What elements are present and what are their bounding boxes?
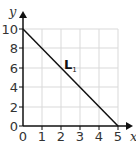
svg-text:4: 4 bbox=[95, 129, 103, 142]
svg-text:3: 3 bbox=[76, 129, 84, 142]
svg-text:10: 10 bbox=[1, 22, 18, 37]
x-tick-labels: 0 1 2 3 4 5 bbox=[19, 129, 122, 142]
y-axis-arrow-icon bbox=[19, 11, 27, 18]
line-chart: 10 8 6 4 2 0 0 1 2 3 4 5 x y L1 bbox=[0, 0, 136, 142]
svg-text:2: 2 bbox=[10, 100, 18, 115]
svg-text:4: 4 bbox=[10, 80, 18, 95]
y-tick-labels: 10 8 6 4 2 0 bbox=[1, 22, 18, 134]
line-l1 bbox=[23, 29, 118, 126]
y-axis-label: y bbox=[8, 4, 17, 19]
svg-text:0: 0 bbox=[10, 119, 18, 134]
svg-text:5: 5 bbox=[114, 129, 122, 142]
svg-text:0: 0 bbox=[19, 129, 27, 142]
svg-text:1: 1 bbox=[38, 129, 46, 142]
svg-text:2: 2 bbox=[57, 129, 65, 142]
x-axis-label: x bbox=[130, 129, 136, 142]
line-l1-label: L1 bbox=[64, 57, 77, 74]
svg-text:6: 6 bbox=[10, 61, 18, 76]
svg-text:8: 8 bbox=[10, 41, 18, 56]
